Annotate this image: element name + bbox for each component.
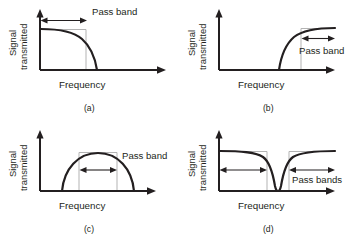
panel-a-low-pass: Pass band Frequency Signal transmitted (… (0, 0, 178, 121)
y-axis-label-line2-b: transmitted (197, 24, 208, 70)
caption-b: (b) (263, 103, 274, 113)
panel-d-band-stop: Pass bands Frequency Signal transmitted … (179, 121, 357, 242)
pass-band-label-c: Pass band (122, 150, 167, 161)
pass-band-label-a: Pass band (92, 6, 137, 17)
x-axis-arrowhead-b (326, 66, 335, 74)
band-stop-curve (220, 151, 335, 191)
x-axis-label-b: Frequency (238, 79, 284, 90)
y-axis-label-line2-d: transmitted (197, 145, 208, 191)
dim-arrowhead-right-b (328, 36, 335, 42)
x-axis-label-c: Frequency (59, 200, 105, 211)
panel-b-high-pass: Pass band Frequency Signal transmitted (… (179, 0, 357, 121)
x-axis-arrowhead-c (147, 187, 156, 195)
x-axis-arrowhead-d (326, 187, 335, 195)
caption-a: (a) (84, 103, 95, 113)
y-axis-arrowhead-c (36, 130, 43, 139)
x-axis-label-d: Frequency (238, 200, 284, 211)
caption-c: (c) (84, 224, 94, 234)
dim-arrowhead-left-b (302, 36, 309, 42)
pass-band-label-b: Pass band (299, 45, 344, 56)
dim-arrowhead-right-d-left (260, 167, 267, 173)
pass-bands-label-d: Pass bands (292, 174, 342, 185)
y-axis-label-line1-a: Signal (7, 30, 18, 56)
filter-response-figure: Pass band Frequency Signal transmitted (… (0, 0, 357, 243)
dim-arrowhead-right-c (110, 167, 117, 173)
y-axis-arrowhead-d (215, 130, 222, 139)
x-axis-label-a: Frequency (59, 79, 105, 90)
dim-arrowhead-left-d-right (289, 167, 296, 173)
y-axis-arrowhead-a (36, 9, 43, 18)
pass-band-box-d-left (220, 152, 267, 192)
y-axis-arrowhead-b (215, 9, 222, 18)
y-axis-label-line1-c: Signal (7, 151, 18, 177)
y-axis-label-line2-a: transmitted (18, 24, 29, 70)
x-axis-arrowhead-a (157, 66, 166, 74)
dim-arrowhead-left-a (41, 18, 48, 24)
dim-arrowhead-left-d-left (220, 167, 227, 173)
panel-c-band-pass: Pass band Frequency Signal transmitted (… (0, 121, 178, 242)
y-axis-label-line1-d: Signal (186, 151, 197, 177)
y-axis-label-line1-b: Signal (186, 30, 197, 56)
dim-arrowhead-right-a (80, 18, 87, 24)
low-pass-curve (41, 29, 97, 70)
dim-arrowhead-left-c (80, 167, 87, 173)
dim-arrowhead-right-d-right (328, 167, 335, 173)
caption-d: (d) (263, 224, 274, 234)
y-axis-label-line2-c: transmitted (18, 145, 29, 191)
